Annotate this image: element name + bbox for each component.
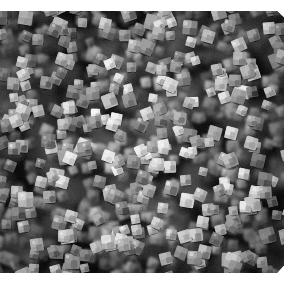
sem-nanocube-micrograph <box>0 11 284 273</box>
page-canvas: Scanning electron micrograph of densely … <box>0 0 302 299</box>
nanocube-particle-layer <box>0 11 284 273</box>
illumination-vignette <box>0 11 284 273</box>
substrate-haze-layer <box>0 11 284 273</box>
detector-noise-layer <box>0 11 284 273</box>
